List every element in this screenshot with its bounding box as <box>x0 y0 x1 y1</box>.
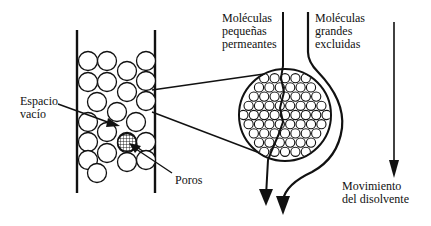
pore-bead <box>306 83 315 92</box>
pore-bead <box>301 129 310 138</box>
pore-bead <box>306 120 315 129</box>
solvent-movement-label: Movimiento del disolvente <box>342 180 409 205</box>
small-molecules-label: Moléculas pequeñas permeantes <box>222 12 277 50</box>
pore-bead <box>254 83 263 92</box>
pore-bead <box>301 92 310 101</box>
pore-bead <box>306 101 315 110</box>
bead <box>98 144 117 163</box>
pore-bead <box>254 120 263 129</box>
pore-bead <box>265 138 274 147</box>
bead <box>118 153 137 172</box>
bead <box>137 52 156 71</box>
pore-bead <box>265 83 274 92</box>
pore-bead <box>291 110 300 119</box>
bead <box>108 103 127 122</box>
pore-bead <box>291 147 300 156</box>
pore-bead <box>244 101 253 110</box>
pore-bead <box>291 129 300 138</box>
small-molecule-arrowhead <box>259 189 273 206</box>
large-molecule-arrowhead <box>276 196 290 215</box>
pore-bead <box>306 138 315 147</box>
pore-bead <box>296 101 305 110</box>
pore-bead <box>280 129 289 138</box>
pore-bead <box>317 120 326 129</box>
pore-bead <box>312 110 321 119</box>
pore-bead <box>260 129 269 138</box>
column-beads <box>79 52 156 183</box>
pore-bead <box>260 110 269 119</box>
pore-bead <box>260 92 269 101</box>
pore-bead <box>286 120 295 129</box>
bead <box>98 73 117 92</box>
pore-bead <box>286 138 295 147</box>
pore-bead <box>249 129 258 138</box>
bead <box>88 164 107 183</box>
pore-bead <box>239 110 248 119</box>
pore-bead <box>249 110 258 119</box>
bead <box>137 92 156 111</box>
pore-bead <box>301 110 310 119</box>
bead <box>118 83 137 102</box>
bead <box>98 52 117 71</box>
bead <box>127 113 146 132</box>
bead <box>137 72 156 91</box>
pore-bead <box>296 138 305 147</box>
bead <box>79 73 98 92</box>
solvent-arrowhead <box>389 160 399 178</box>
pore-bead <box>265 120 274 129</box>
pore-bead <box>270 110 279 119</box>
pore-bead <box>249 92 258 101</box>
bead <box>79 52 98 71</box>
pore-bead <box>244 120 253 129</box>
pore-bead <box>270 92 279 101</box>
pores-label: Poros <box>175 174 202 186</box>
void-space-label: Espacio vacío <box>20 95 58 120</box>
pore-bead <box>291 92 300 101</box>
pore-bead <box>280 147 289 156</box>
pore-bead <box>296 83 305 92</box>
bead <box>88 93 107 112</box>
bead <box>79 133 98 152</box>
pore-bead <box>286 83 295 92</box>
large-molecules-label: Moléculas grandes excluidas <box>315 12 365 50</box>
bead <box>137 133 156 152</box>
pore-bead <box>322 110 331 119</box>
pore-bead <box>265 101 274 110</box>
pore-bead <box>270 74 279 83</box>
bead <box>118 62 137 81</box>
pore-bead <box>312 92 321 101</box>
pore-bead <box>291 74 300 83</box>
pore-bead <box>312 129 321 138</box>
pore-bead <box>254 138 263 147</box>
pore-bead <box>317 101 326 110</box>
pore-bead <box>296 120 305 129</box>
pore-bead <box>286 101 295 110</box>
pore-bead <box>254 101 263 110</box>
